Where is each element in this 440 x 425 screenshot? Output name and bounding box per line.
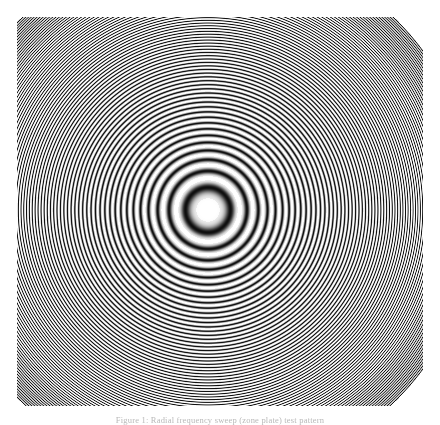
figure-root: Figure 1: Radial frequency sweep (zone p… — [0, 0, 440, 425]
zone-plate-pattern — [0, 0, 440, 425]
